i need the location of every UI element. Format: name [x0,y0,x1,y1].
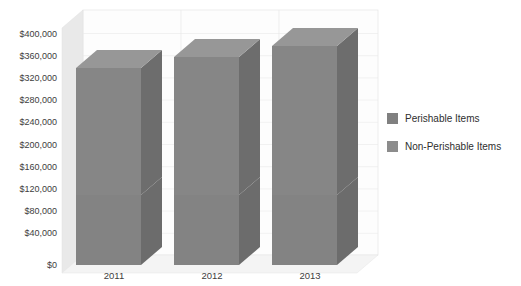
legend-item-perishable[interactable]: Perishable Items [387,113,479,124]
y-tick-label: $40,000 [24,228,57,238]
y-tick-label: $200,000 [19,140,57,150]
legend-swatch-perishable [387,113,398,124]
y-tick-label: $0 [47,260,57,270]
y-tick-label: $240,000 [19,117,57,127]
y-tick-label: $120,000 [19,184,57,194]
y-tick-label: $160,000 [19,162,57,172]
bar-segment-nonperishable-front[interactable] [272,46,337,195]
x-tick-label-2013: 2013 [299,270,320,281]
y-axis-labels: $400,000 $360,000 $320,000 $280,000 $240… [19,29,57,270]
bar-segment-perishable-front[interactable] [76,195,141,265]
bar-group-2012[interactable] [174,39,260,265]
bar-segment-nonperishable-front[interactable] [174,57,239,195]
chart-container: $400,000 $360,000 $320,000 $280,000 $240… [0,0,521,286]
x-tick-label-2011: 2011 [104,270,124,281]
bar-group-2011[interactable] [76,50,162,265]
y-tick-label: $80,000 [24,206,57,216]
bar-segment-perishable-front[interactable] [174,195,239,265]
legend-label-nonperishable: Non-Perishable Items [405,141,501,152]
y-tick-label: $280,000 [19,95,57,105]
legend-label-perishable: Perishable Items [405,113,479,124]
bar-segment-nonperishable-front[interactable] [76,68,141,195]
y-tick-label: $400,000 [19,29,57,39]
legend-swatch-nonperishable [387,141,398,152]
bar-segment-nonperishable-side[interactable] [239,39,260,195]
y-tick-label: $360,000 [19,51,57,61]
stacked-3d-bar-chart: $400,000 $360,000 $320,000 $280,000 $240… [0,0,521,286]
bar-group-2013[interactable] [272,28,358,265]
bar-segment-perishable-front[interactable] [272,195,337,265]
legend: Perishable Items Non-Perishable Items [387,113,501,152]
y-tick-label: $320,000 [19,73,57,83]
bar-segment-nonperishable-side[interactable] [141,50,162,195]
bar-segment-nonperishable-side[interactable] [337,28,358,195]
x-tick-label-2012: 2012 [201,270,222,281]
legend-item-nonperishable[interactable]: Non-Perishable Items [387,141,501,152]
